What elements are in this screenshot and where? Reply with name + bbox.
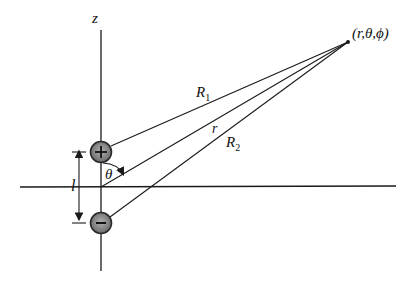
dipole-diagram: z (r,θ,ϕ) R1 r R2 θ l	[0, 0, 414, 284]
field-point-dot	[346, 40, 350, 44]
r-label: r	[212, 121, 218, 136]
z-axis-label: z	[91, 10, 98, 26]
line-r	[101, 42, 348, 187]
R2-label: R2	[225, 134, 240, 153]
R1-label: R1	[195, 84, 210, 103]
negative-charge	[91, 213, 112, 234]
separation-label: l	[71, 177, 76, 194]
line-R1	[111, 42, 348, 146]
positive-charge	[91, 142, 112, 163]
horizontal-axis	[20, 186, 396, 187]
theta-label: θ	[105, 166, 113, 182]
line-R2	[110, 42, 348, 217]
field-point-label: (r,θ,ϕ)	[352, 25, 389, 42]
